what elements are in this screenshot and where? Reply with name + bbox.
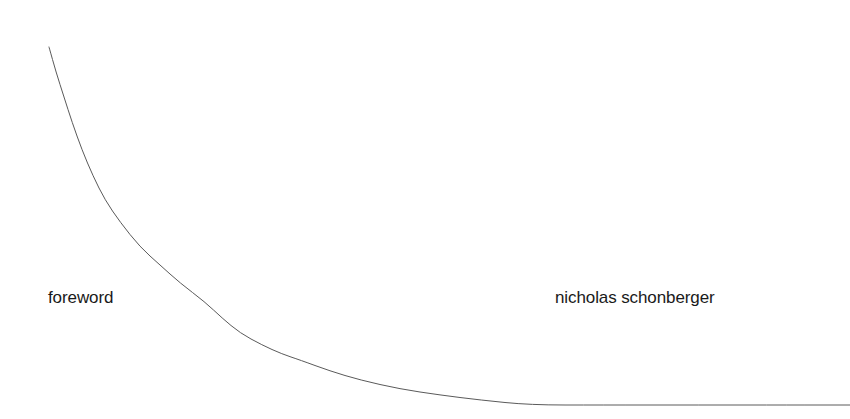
decay-curve-chart (0, 0, 850, 419)
section-label-foreword: foreword (48, 289, 113, 306)
page-canvas: foreword nicholas schonberger (0, 0, 850, 419)
decay-curve-path (49, 47, 850, 405)
author-label: nicholas schonberger (555, 289, 715, 306)
